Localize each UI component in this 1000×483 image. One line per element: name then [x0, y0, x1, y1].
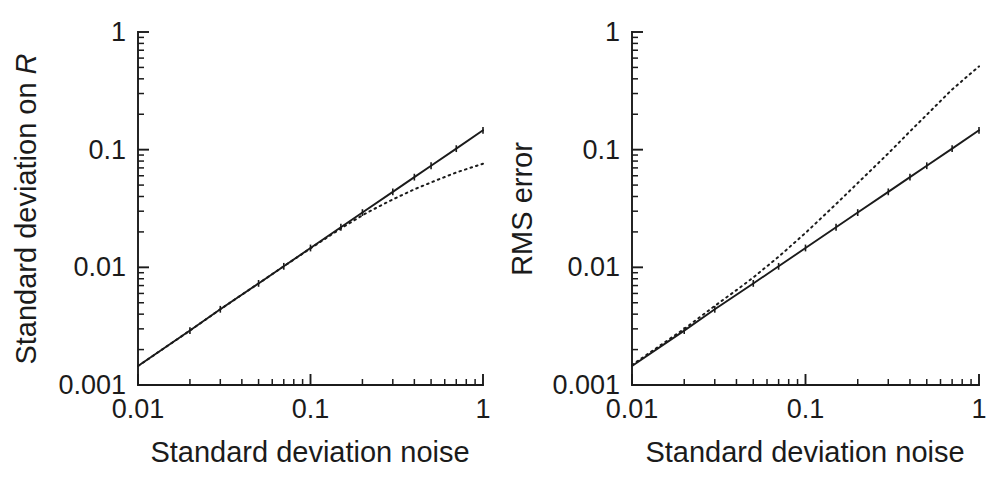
figure-root: 10.10.010.001 0.010.11 Standard deviatio… — [0, 0, 1000, 483]
y-tick-labels: 10.10.010.001 — [552, 17, 620, 400]
chart-svg-right: 10.10.010.001 0.010.11 RMS error Standar… — [500, 0, 1000, 483]
x-tick-label: 0.1 — [787, 394, 825, 424]
y-tick-labels: 10.10.010.001 — [58, 17, 126, 400]
y-tick-label: 0.01 — [73, 252, 126, 282]
y-tick-label: 1 — [605, 17, 620, 47]
x-axis-title: Standard deviation noise — [645, 436, 964, 468]
dotted-curve — [138, 164, 483, 366]
y-tick-label: 0.01 — [567, 252, 620, 282]
x-tick-label: 0.01 — [112, 394, 165, 424]
x-tick-label: 1 — [971, 394, 986, 424]
y-axis-title: Standard deviation on R — [10, 53, 42, 364]
chart-panel-right: 10.10.010.001 0.010.11 RMS error Standar… — [500, 0, 1000, 483]
x-tick-label: 0.1 — [292, 394, 330, 424]
x-tick-labels: 0.010.11 — [606, 394, 987, 424]
y-tick-label: 0.1 — [582, 135, 620, 165]
y-tick-label: 1 — [111, 17, 126, 47]
dotted-curve — [632, 66, 979, 365]
y-tick-label: 0.1 — [88, 135, 126, 165]
x-tick-label: 0.01 — [606, 394, 659, 424]
x-tick-label: 1 — [475, 394, 490, 424]
y-axis-title: RMS error — [506, 142, 538, 276]
x-tick-labels: 0.010.11 — [112, 394, 491, 424]
chart-panel-left: 10.10.010.001 0.010.11 Standard deviatio… — [0, 0, 500, 483]
x-axis-title: Standard deviation noise — [150, 436, 469, 468]
chart-svg-left: 10.10.010.001 0.010.11 Standard deviatio… — [0, 0, 500, 483]
